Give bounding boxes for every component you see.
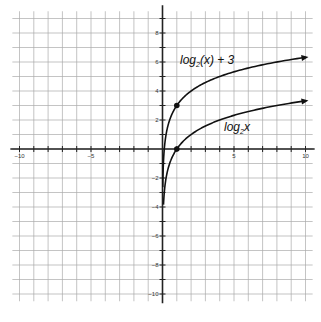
- arrowhead: [301, 98, 308, 104]
- x-tick-label: −10: [14, 153, 25, 159]
- curve-label-log2x: log2x: [224, 120, 251, 135]
- x-tick-label: 10: [302, 153, 309, 159]
- curve-labels: log2(x) + 3 log2x: [180, 53, 251, 135]
- y-tick-label: −10: [148, 291, 159, 297]
- curve-label-log2x-plus-3: log2(x) + 3: [180, 53, 235, 68]
- arrowhead: [301, 55, 308, 61]
- y-tick-label: −6: [152, 233, 160, 239]
- axes: [10, 5, 314, 303]
- log-function-graph: −10−55108642−2−4−6−8−10 log2(x) + 3 log2…: [0, 0, 321, 322]
- marked-point: [174, 146, 180, 152]
- y-tick-label: −2: [152, 175, 160, 181]
- y-tick-label: −8: [152, 262, 160, 268]
- marked-point: [174, 103, 180, 109]
- x-tick-label: 5: [232, 153, 236, 159]
- x-tick-label: −5: [88, 153, 96, 159]
- y-tick-label: −4: [152, 204, 160, 210]
